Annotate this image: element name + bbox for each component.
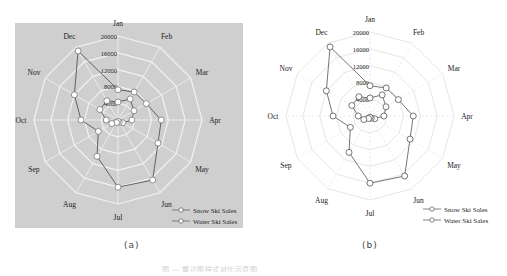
data-point xyxy=(407,136,413,142)
axis-label-dec: Dec xyxy=(63,32,76,41)
data-point xyxy=(115,99,121,105)
data-point xyxy=(379,92,385,98)
data-point xyxy=(127,96,133,102)
subfigure-label-b: (b) xyxy=(362,240,378,250)
legend-entry: Snow Ski Sales xyxy=(444,206,488,214)
data-point xyxy=(155,140,161,146)
radial-tick-label: 20000 xyxy=(353,29,369,36)
axis-label-dec: Dec xyxy=(315,28,328,37)
data-point xyxy=(346,149,352,155)
radar-chart-b: JanFebMarAprMayJunJulAugSepOctNovDec0400… xyxy=(253,0,507,240)
data-point xyxy=(402,173,408,179)
data-point xyxy=(330,113,336,119)
data-point xyxy=(381,113,387,119)
data-point xyxy=(115,87,121,93)
data-point xyxy=(383,85,389,91)
data-point xyxy=(347,124,353,130)
data-point xyxy=(410,113,416,119)
data-point xyxy=(355,113,361,119)
data-point xyxy=(349,103,355,109)
data-point xyxy=(131,108,137,114)
axis-label-feb: Feb xyxy=(161,32,173,41)
axis-label-sep: Sep xyxy=(280,161,292,170)
data-point xyxy=(327,44,333,50)
data-point xyxy=(383,104,389,110)
subfigure-label-a: (a) xyxy=(124,240,140,250)
data-point xyxy=(150,177,156,183)
axis-label-jan: Jan xyxy=(365,15,375,24)
data-point xyxy=(131,89,137,95)
axis-label-aug: Aug xyxy=(63,200,76,209)
axis-label-mar: Mar xyxy=(448,64,461,73)
radial-tick-label: 12000 xyxy=(101,67,117,74)
axis-label-nov: Nov xyxy=(28,68,41,77)
legend-entry: Snow Ski Sales xyxy=(193,207,237,215)
data-point xyxy=(361,117,367,123)
axis-label-feb: Feb xyxy=(413,28,425,37)
data-point xyxy=(75,48,81,54)
plot-background xyxy=(15,23,243,228)
legend-marker xyxy=(179,219,183,223)
radar-plot-b: JanFebMarAprMayJunJulAugSepOctNovDec0400… xyxy=(253,0,507,240)
data-point xyxy=(323,88,329,94)
axis-label-nov: Nov xyxy=(280,64,293,73)
data-point xyxy=(103,117,109,123)
data-point xyxy=(395,97,401,103)
data-point xyxy=(97,107,103,113)
axis-label-may: May xyxy=(447,161,461,170)
axis-label-apr: Apr xyxy=(461,112,473,121)
radar-plot-a: JanFebMarAprMayJunJulAugSepOctNovDec0400… xyxy=(0,0,253,240)
data-point xyxy=(367,83,373,89)
data-point xyxy=(109,121,115,127)
radar-chart-a: JanFebMarAprMayJunJulAugSepOctNovDec0400… xyxy=(0,0,253,240)
axis-label-oct: Oct xyxy=(268,112,280,121)
legend-marker xyxy=(430,218,434,222)
data-point xyxy=(367,95,373,101)
data-point xyxy=(94,153,100,159)
axis-label-mar: Mar xyxy=(196,68,209,77)
legend-marker xyxy=(179,208,183,212)
axis-label-jun: Jun xyxy=(413,196,424,205)
data-point xyxy=(78,117,84,123)
legend-marker xyxy=(430,207,434,211)
radial-tick-label: 20000 xyxy=(101,33,117,40)
data-point xyxy=(115,184,121,190)
figure-caption: 图 — 雷达图样式对比示意图 xyxy=(162,264,352,272)
data-point xyxy=(71,92,77,98)
axis-label-jun: Jun xyxy=(161,200,172,209)
legend-entry: Water Ski Sales xyxy=(444,217,488,225)
axis-label-aug: Aug xyxy=(315,196,328,205)
axis-label-apr: Apr xyxy=(209,116,221,125)
radial-tick-label: 12000 xyxy=(353,63,369,70)
radial-tick-label: 16000 xyxy=(353,46,369,53)
axis-label-jan: Jan xyxy=(113,19,123,28)
data-point xyxy=(143,101,149,107)
data-point xyxy=(104,98,110,104)
data-point xyxy=(158,117,164,123)
radial-tick-label: 16000 xyxy=(101,50,117,57)
data-point xyxy=(129,117,135,123)
data-point xyxy=(95,128,101,134)
axis-label-sep: Sep xyxy=(28,165,40,174)
axis-label-jul: Jul xyxy=(114,213,123,222)
axis-label-jul: Jul xyxy=(366,209,375,218)
data-point xyxy=(356,94,362,100)
legend-entry: Water Ski Sales xyxy=(193,218,237,226)
data-point xyxy=(367,180,373,186)
axis-label-may: May xyxy=(195,165,209,174)
axis-label-oct: Oct xyxy=(16,116,28,125)
